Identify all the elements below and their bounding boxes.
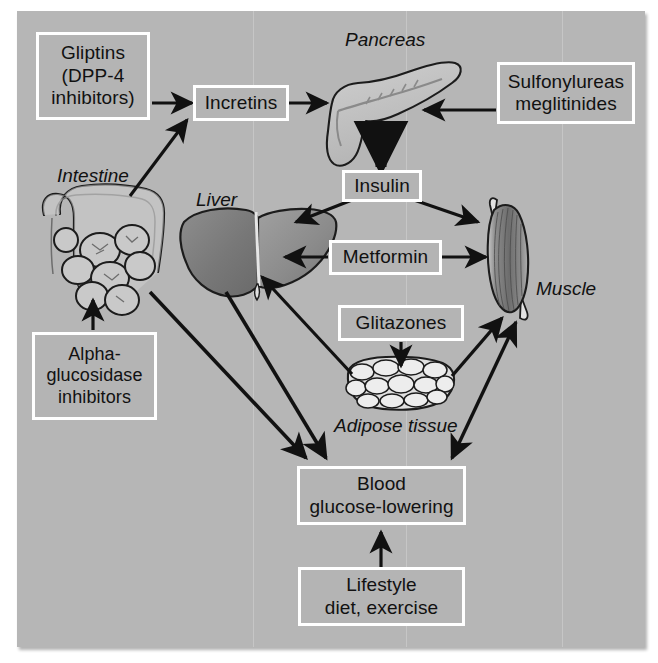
box-alpha-glucosidase-inhibitors[interactable]: Alpha- glucosidase inhibitors: [32, 332, 157, 420]
box-sulfonylureas[interactable]: Sulfonylureas meglitinides: [497, 62, 635, 124]
box-glitazones[interactable]: Glitazones: [338, 305, 464, 341]
box-lifestyle[interactable]: Lifestyle diet, exercise: [298, 567, 465, 626]
label-adipose-tissue: Adipose tissue: [334, 415, 458, 437]
box-metformin[interactable]: Metformin: [329, 240, 442, 275]
box-blood-glucose-lowering[interactable]: Blood glucose-lowering: [297, 466, 466, 525]
label-liver: Liver: [196, 189, 237, 211]
box-incretins[interactable]: Incretins: [193, 85, 289, 121]
figure-canvas: Gliptins (DPP-4 inhibitors) Incretins Su…: [0, 0, 658, 663]
label-muscle: Muscle: [536, 278, 596, 300]
box-insulin[interactable]: Insulin: [342, 170, 422, 202]
label-pancreas: Pancreas: [345, 29, 425, 51]
box-gliptins[interactable]: Gliptins (DPP-4 inhibitors): [36, 32, 150, 120]
label-intestine: Intestine: [57, 165, 129, 187]
